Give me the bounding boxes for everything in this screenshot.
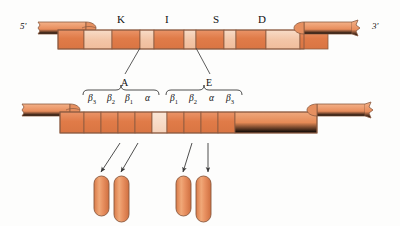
gene-label-K: K — [117, 14, 125, 25]
capsule-3 — [176, 176, 191, 216]
arrow-2 — [121, 143, 138, 172]
group-a-leader — [125, 48, 140, 74]
bottom-segment-3 — [118, 112, 135, 133]
bottom-strand-right-tear — [307, 102, 373, 118]
gene-label-S: S — [213, 14, 219, 25]
top-segment-6 — [196, 30, 224, 49]
top-strand-right-tear — [294, 20, 360, 36]
figure-canvas: Aβ3β2β1αEβ1β2αβ3KISD5'3' — [0, 0, 400, 226]
capsule-4 — [196, 176, 211, 222]
top-strand-body — [58, 30, 328, 49]
top-segment-3 — [140, 30, 154, 49]
bottom-segment-5 — [152, 112, 167, 133]
bottom-segment-1 — [84, 112, 101, 133]
top-segment-4 — [154, 30, 184, 49]
group-a-chain-label-2: β1 — [125, 94, 133, 105]
bottom-segment-4 — [135, 112, 152, 133]
bottom-segment-8 — [201, 112, 218, 133]
five-prime-label: 5' — [20, 22, 26, 31]
top-segment-9 — [266, 30, 300, 49]
group-e-chain-label-0: β1 — [170, 94, 178, 105]
leader-lines — [125, 48, 210, 74]
capsule-2 — [114, 176, 129, 222]
group-a-chain-label-0: β3 — [88, 94, 96, 105]
bottom-segment-7 — [184, 112, 201, 133]
group-e-letter: E — [206, 78, 212, 88]
capsule-1 — [94, 176, 109, 216]
bottom-segment-10 — [235, 112, 317, 133]
assembly-arrows — [101, 143, 208, 172]
group-e-chain-label-3: β3 — [226, 94, 234, 105]
bottom-segment-2 — [101, 112, 118, 133]
top-segment-1 — [84, 30, 112, 49]
arrow-1 — [101, 143, 120, 172]
bottom-segment-6 — [167, 112, 184, 133]
top-segment-5 — [184, 30, 196, 49]
group-e-chain-label-1: β2 — [189, 94, 197, 105]
group-a-letter: A — [121, 78, 128, 88]
protein-chains — [94, 176, 211, 222]
gene-label-I: I — [165, 14, 169, 25]
three-prime-label: 3' — [372, 22, 378, 31]
top-segment-8 — [236, 30, 266, 49]
group-e-leader — [196, 48, 210, 74]
group-a-chain-label-1: β2 — [107, 94, 115, 105]
diagram-graphics — [0, 0, 400, 226]
arrow-3 — [183, 143, 192, 172]
top-segment-0 — [58, 30, 84, 49]
top-segment-7 — [224, 30, 236, 49]
group-e-chain-label-2: α — [209, 94, 214, 104]
group-a-chain-label-3: α — [145, 94, 150, 104]
top-segment-2 — [112, 30, 140, 49]
bottom-segment-9 — [218, 112, 235, 133]
bottom-segment-0 — [60, 112, 84, 133]
bottom-strand-body — [60, 112, 317, 133]
gene-label-D: D — [258, 14, 266, 25]
